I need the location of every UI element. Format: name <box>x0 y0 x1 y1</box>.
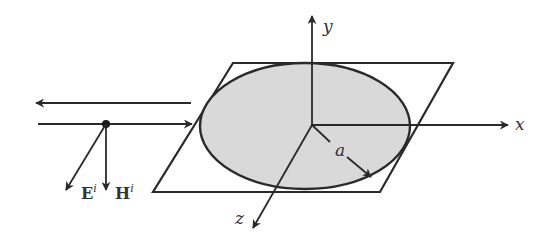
y-axis-label: y <box>322 16 333 36</box>
diagram-svg: y x z a Ei Hi <box>0 0 547 237</box>
circular-disk <box>200 63 410 189</box>
x-axis-label: x <box>515 114 525 134</box>
e-field-vector <box>66 124 106 190</box>
diagram-canvas: y x z a Ei Hi <box>0 0 547 237</box>
h-field-label: Hi <box>115 182 134 203</box>
radius-label: a <box>335 140 345 160</box>
z-axis-label: z <box>234 208 245 228</box>
e-field-label: Ei <box>81 182 97 203</box>
